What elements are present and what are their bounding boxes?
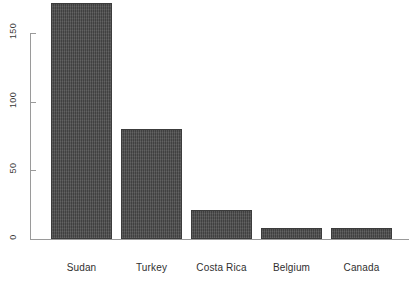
- plot-area: 050100150 SudanTurkeyCosta RicaBelgiumCa…: [0, 0, 411, 293]
- category-label-canada: Canada: [317, 262, 406, 273]
- figure-caption-clipped: [0, 286, 411, 293]
- bar-costa-rica[interactable]: [191, 210, 252, 239]
- bar-series: [0, 0, 411, 293]
- bar-canada[interactable]: [331, 228, 392, 239]
- bar-chart-figure: 050100150 SudanTurkeyCosta RicaBelgiumCa…: [0, 0, 411, 293]
- bar-sudan[interactable]: [51, 3, 112, 239]
- bar-turkey[interactable]: [121, 129, 182, 239]
- bar-belgium[interactable]: [261, 228, 322, 239]
